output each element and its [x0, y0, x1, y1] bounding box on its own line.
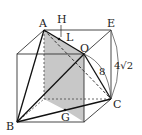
- label-length-OC: 8: [99, 66, 105, 77]
- label-length-EC: 4√2: [114, 60, 133, 71]
- shaded-section: [44, 30, 84, 122]
- label-H: H: [57, 13, 67, 26]
- label-L: L: [66, 31, 74, 44]
- label-B: B: [6, 120, 14, 133]
- segment-OC: [84, 54, 111, 99]
- label-C: C: [113, 98, 121, 111]
- cube-diagram: A H L E O C B G 8 4√2: [0, 0, 142, 135]
- label-E: E: [107, 17, 115, 30]
- label-O: O: [80, 42, 89, 55]
- point-L: [58, 38, 61, 41]
- label-G: G: [61, 111, 70, 124]
- label-A: A: [38, 17, 48, 30]
